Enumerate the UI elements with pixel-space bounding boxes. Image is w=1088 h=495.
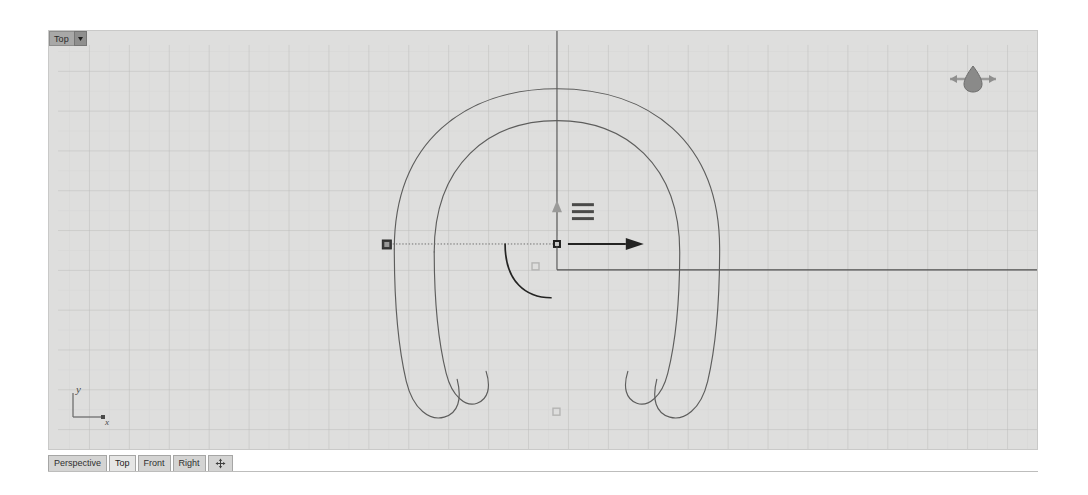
world-axis-y-label: y	[75, 383, 81, 395]
horseshoe-curve-outer-left-tip	[394, 249, 459, 418]
gumball-rotation-arc[interactable]	[505, 244, 551, 298]
horseshoe-curve-inner-left-tip	[434, 252, 488, 404]
move-glyph	[215, 458, 226, 469]
tab-perspective[interactable]: Perspective	[48, 455, 107, 471]
chevron-down-glyph	[76, 34, 85, 43]
gumball-scale-handle[interactable]	[532, 263, 560, 415]
viewport-top[interactable]: y x	[48, 30, 1038, 450]
viewport-tab-bar: Perspective Top Front Right	[48, 455, 233, 471]
viewport-title-tab[interactable]: Top	[49, 31, 87, 46]
chevron-down-icon[interactable]	[74, 31, 87, 46]
tab-front[interactable]: Front	[138, 455, 171, 471]
world-axis-x-label: x	[104, 417, 109, 427]
tab-right[interactable]: Right	[173, 455, 206, 471]
gumball-extrude-bracket[interactable]	[557, 246, 1037, 270]
tabbar-divider	[48, 471, 1038, 472]
gumball-x-axis-arrow[interactable]	[568, 238, 644, 250]
hamburger-menu-icon[interactable]	[572, 203, 594, 220]
rhino-viewport-window: y x Top Perspective Top Front Right	[0, 0, 1088, 495]
gumball-y-axis-arrow[interactable]	[552, 200, 562, 236]
four-arrows-move-icon[interactable]	[208, 455, 233, 471]
world-axes-glyph: y x	[65, 383, 125, 431]
drag-control-point[interactable]	[382, 240, 391, 249]
tab-top[interactable]: Top	[109, 455, 136, 471]
viewport-title-label[interactable]: Top	[49, 31, 74, 46]
north-compass-widget[interactable]	[947, 61, 999, 97]
compass-icon	[947, 61, 999, 97]
world-axes-icon: y x	[65, 383, 125, 431]
model-geometry-layer	[49, 31, 1037, 449]
